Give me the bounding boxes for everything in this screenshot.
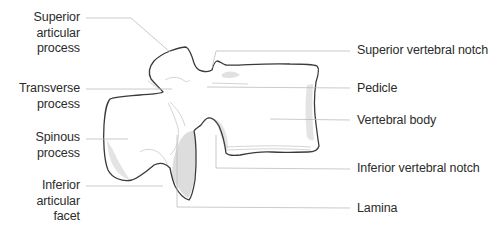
- label-lamina: Lamina: [357, 201, 397, 217]
- label-line: process: [34, 41, 80, 57]
- label-line: articular: [34, 26, 80, 42]
- label-line: process: [19, 97, 80, 113]
- label-superior-articular-process: Superior articular process: [34, 10, 80, 57]
- label-pedicle: Pedicle: [357, 81, 397, 97]
- leader-vertebral-body: [270, 119, 350, 120]
- label-vertebral-body: Vertebral body: [357, 113, 436, 129]
- vertebra-outline: [104, 47, 319, 200]
- label-line: Superior: [34, 10, 80, 26]
- label-transverse-process: Transverse process: [19, 81, 80, 112]
- label-line: process: [36, 146, 80, 162]
- leader-pedicle: [207, 87, 350, 88]
- label-spinous-process: Spinous process: [36, 130, 80, 161]
- shading: [107, 71, 314, 198]
- label-line: facet: [36, 209, 80, 225]
- label-line: articular: [36, 194, 80, 210]
- label-line: Spinous: [36, 130, 80, 146]
- label-line: Transverse: [19, 81, 80, 97]
- leader-superior-articular-process: [86, 18, 170, 52]
- label-line: Inferior: [36, 178, 80, 194]
- label-inferior-vertebral-notch: Inferior vertebral notch: [357, 161, 480, 177]
- label-superior-vertebral-notch: Superior vertebral notch: [357, 43, 488, 59]
- label-inferior-articular-facet: Inferior articular facet: [36, 178, 80, 225]
